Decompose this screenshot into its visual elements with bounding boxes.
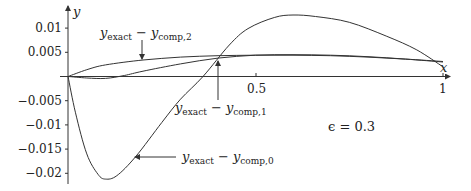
y-tick-label: −0.01 [25, 118, 62, 132]
x-tick-label-1: 1 [439, 82, 447, 96]
error-chart: y x 0.5 1 0.01 0.005 −0.005 −0.01 −0.015… [0, 0, 471, 191]
y-tick-label: −0.015 [18, 142, 62, 156]
epsilon-label: ϵ = 0.3 [328, 119, 375, 134]
y-tick-label: −0.02 [25, 166, 62, 180]
y-tick-label: −0.005 [18, 94, 62, 108]
y-tick-label: 0.01 [35, 21, 62, 35]
label-comp-1: yexact − ycomp,1 [174, 100, 267, 117]
y-tick-label: 0.005 [28, 45, 62, 59]
y-ticks: 0.01 0.005 −0.005 −0.01 −0.015 −0.02 [18, 21, 68, 180]
label-comp-2: yexact − ycomp,2 [99, 25, 192, 42]
x-tick-label-0-5: 0.5 [247, 82, 266, 96]
label-comp-0: yexact − ycomp,0 [181, 149, 274, 166]
y-axis-label: y [72, 4, 81, 19]
